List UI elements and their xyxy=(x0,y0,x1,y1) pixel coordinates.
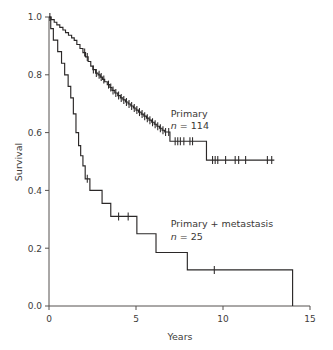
survival-curves-group xyxy=(49,17,293,306)
x-tick-label: 10 xyxy=(217,314,229,324)
y-tick-label: 0.6 xyxy=(28,128,43,138)
y-tick-label: 0.2 xyxy=(28,244,42,254)
x-axis-title: Years xyxy=(166,331,192,342)
survival-chart-figure: 0.00.20.40.60.81.0 051015 Primaryn = 114… xyxy=(0,0,333,350)
x-tick-label: 15 xyxy=(304,314,315,324)
series-label-0: Primary xyxy=(171,108,208,119)
y-tick-label: 0.8 xyxy=(28,70,43,80)
series-n-label-0: n = 114 xyxy=(171,120,209,131)
x-tick-label: 5 xyxy=(133,314,139,324)
kaplan-meier-plot: 0.00.20.40.60.81.0 051015 Primaryn = 114… xyxy=(0,0,333,350)
y-axis-ticks: 0.00.20.40.60.81.0 xyxy=(28,12,49,311)
x-axis-ticks: 051015 xyxy=(46,306,316,324)
y-tick-label: 1.0 xyxy=(28,12,43,22)
y-tick-label: 0.0 xyxy=(28,301,43,311)
x-tick-label: 0 xyxy=(46,314,52,324)
survival-curve-0 xyxy=(49,17,274,160)
series-n-label-1: n = 25 xyxy=(171,231,203,242)
survival-curve-1 xyxy=(49,17,293,306)
series-annotations-group: Primaryn = 114Primary + metastasisn = 25 xyxy=(171,108,273,242)
y-axis-title: Survival xyxy=(13,143,24,181)
y-tick-label: 0.4 xyxy=(28,186,43,196)
series-label-1: Primary + metastasis xyxy=(171,218,273,229)
